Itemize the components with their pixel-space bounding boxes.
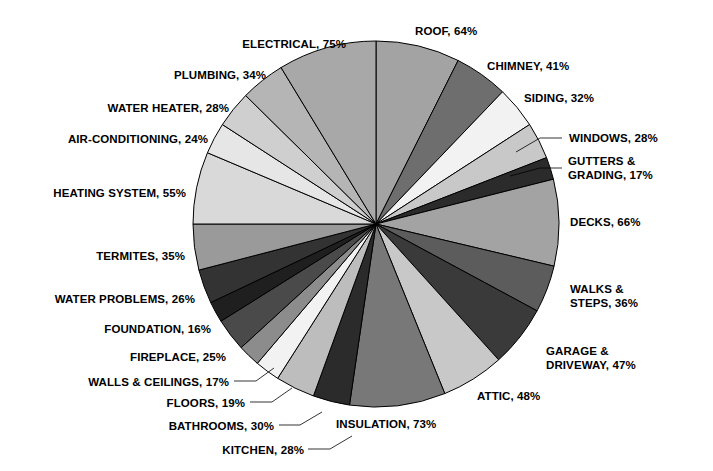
pie-label-chimney: CHIMNEY, 41% — [487, 60, 569, 74]
pie-chart-svg — [0, 0, 713, 471]
pie-label-bathrooms: BATHROOMS, 30% — [169, 420, 274, 434]
pie-label-windows: WINDOWS, 28% — [569, 132, 658, 146]
pie-label-gutters-grading: GUTTERS & GRADING, 17% — [568, 155, 653, 182]
pie-label-plumbing: PLUMBING, 34% — [174, 69, 266, 83]
pie-label-garage-driveway: GARAGE & DRIVEWAY, 47% — [546, 345, 636, 372]
pie-label-roof: ROOF, 64% — [415, 25, 477, 39]
pie-label-water-problems: WATER PROBLEMS, 26% — [55, 293, 195, 307]
label-leader-line — [308, 436, 352, 449]
pie-slices-group — [193, 41, 559, 407]
label-leader-line — [279, 412, 322, 425]
pie-chart-figure: ROOF, 64%CHIMNEY, 41%SIDING, 32%WINDOWS,… — [0, 0, 713, 471]
pie-label-decks: DECKS, 66% — [570, 216, 641, 230]
pie-label-electrical: ELECTRICAL, 75% — [242, 38, 346, 52]
pie-label-attic: ATTIC, 48% — [477, 390, 540, 404]
pie-label-termites: TERMITES, 35% — [96, 250, 185, 264]
pie-label-water-heater: WATER HEATER, 28% — [108, 102, 229, 116]
pie-label-walks-steps: WALKS & STEPS, 36% — [570, 283, 638, 310]
pie-label-kitchen: KITCHEN, 28% — [222, 444, 304, 458]
pie-label-walls-ceilings: WALLS & CEILINGS, 17% — [88, 376, 229, 390]
pie-label-floors: FLOORS, 19% — [167, 397, 245, 411]
pie-label-air-conditioning: AIR-CONDITIONING, 24% — [68, 133, 208, 147]
label-leader-line — [250, 388, 292, 402]
pie-label-fireplace: FIREPLACE, 25% — [130, 351, 226, 365]
pie-label-foundation: FOUNDATION, 16% — [104, 323, 211, 337]
pie-label-insulation: INSULATION, 73% — [336, 418, 436, 432]
pie-label-heating-system: HEATING SYSTEM, 55% — [53, 187, 186, 201]
pie-label-siding: SIDING, 32% — [524, 92, 594, 106]
